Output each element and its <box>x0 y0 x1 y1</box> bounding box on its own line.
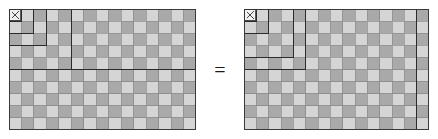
grid-cell <box>404 9 416 21</box>
grid-cell <box>34 94 46 106</box>
grid-cell <box>367 70 379 82</box>
grid-cell <box>21 94 33 106</box>
grid-cell <box>244 33 256 45</box>
grid-cell <box>146 57 158 69</box>
grid-cell <box>121 21 133 33</box>
grid-cell <box>269 106 281 118</box>
grid-cell <box>367 9 379 21</box>
grid-cell <box>417 94 429 106</box>
grid-cell <box>281 70 293 82</box>
grid-cell <box>46 33 58 45</box>
grid-cell <box>380 9 392 21</box>
grid-cell <box>318 21 330 33</box>
grid-cell <box>59 118 71 130</box>
grid-cell <box>109 45 121 57</box>
grid-cell <box>318 94 330 106</box>
grid-cell <box>330 21 342 33</box>
grid-cell <box>404 70 416 82</box>
grid-cell <box>146 82 158 94</box>
grid-cell <box>34 57 46 69</box>
grid-cell <box>355 118 367 130</box>
grid-cell <box>184 70 196 82</box>
grid-cell <box>392 9 404 21</box>
grid-cell <box>96 21 108 33</box>
grid-cell <box>367 21 379 33</box>
grid-cell <box>96 118 108 130</box>
grid-cell <box>355 57 367 69</box>
grid-cell <box>306 82 318 94</box>
grid-cell <box>34 70 46 82</box>
grid-cell <box>269 45 281 57</box>
grid-cell <box>281 94 293 106</box>
grid-cell <box>256 82 268 94</box>
grid-cell <box>343 118 355 130</box>
grid-cell <box>343 106 355 118</box>
grid-cell <box>318 33 330 45</box>
grid-cell <box>34 21 46 33</box>
grid-cell <box>184 106 196 118</box>
grid-cell <box>159 82 171 94</box>
grid-cell <box>392 33 404 45</box>
figure-root: = <box>0 0 438 139</box>
grid-cell <box>109 9 121 21</box>
grid-cell <box>159 45 171 57</box>
grid-cell <box>256 106 268 118</box>
grid-cell <box>84 57 96 69</box>
grid-cell <box>417 57 429 69</box>
grid-cell <box>146 21 158 33</box>
grid-cell <box>46 82 58 94</box>
grid-cell <box>134 21 146 33</box>
grid-cell <box>109 106 121 118</box>
grid-cell <box>343 21 355 33</box>
grid-cell <box>171 106 183 118</box>
grid-cell <box>121 118 133 130</box>
grid-cell <box>256 94 268 106</box>
grid-cell <box>71 94 83 106</box>
grid-cell <box>46 21 58 33</box>
grid-cell <box>121 70 133 82</box>
grid-cell <box>59 9 71 21</box>
grid-cell <box>71 57 83 69</box>
grid-cell <box>109 21 121 33</box>
grid-cell <box>355 106 367 118</box>
grid-cell <box>367 45 379 57</box>
grid-cell <box>330 9 342 21</box>
grid-cell <box>171 118 183 130</box>
grid-cell <box>269 33 281 45</box>
grid-cell <box>404 57 416 69</box>
grid-cell <box>318 106 330 118</box>
grid-cell <box>318 45 330 57</box>
grid-cell <box>269 21 281 33</box>
grid-cell <box>46 70 58 82</box>
grid-cell <box>318 57 330 69</box>
grid-cell <box>96 106 108 118</box>
grid-cell <box>46 94 58 106</box>
grid-cell <box>404 82 416 94</box>
grid-cell <box>404 33 416 45</box>
grid-cell <box>109 118 121 130</box>
grid-cell <box>121 94 133 106</box>
grid-cell <box>269 94 281 106</box>
grid-cell <box>159 9 171 21</box>
grid-cell <box>134 82 146 94</box>
grid-cell <box>380 45 392 57</box>
grid-cell <box>171 33 183 45</box>
grid-cell <box>306 45 318 57</box>
grid-cell <box>343 45 355 57</box>
grid-cell <box>184 57 196 69</box>
grid-cell <box>281 9 293 21</box>
grid-cell <box>34 118 46 130</box>
grid-cell <box>318 82 330 94</box>
grid-cell <box>281 106 293 118</box>
grid-cell <box>159 94 171 106</box>
grid-cell <box>281 33 293 45</box>
grid-cell <box>269 57 281 69</box>
grid-cell <box>293 70 305 82</box>
grid-cell <box>404 45 416 57</box>
grid-cell <box>306 9 318 21</box>
grid-cell <box>306 21 318 33</box>
grid-cell <box>293 94 305 106</box>
grid-cell <box>34 106 46 118</box>
grid-cell <box>84 82 96 94</box>
grid-cell <box>146 45 158 57</box>
